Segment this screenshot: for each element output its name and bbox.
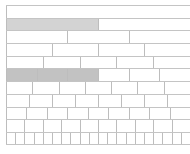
fraction-piece (129, 31, 190, 43)
fraction-row-1-2 (6, 18, 190, 31)
fraction-row-1-7 (6, 81, 190, 94)
fraction-piece (61, 120, 79, 132)
fraction-piece (181, 133, 190, 144)
fraction-piece (88, 108, 108, 120)
fraction-piece (162, 133, 171, 144)
fraction-piece (116, 120, 134, 132)
fraction-piece (144, 95, 167, 107)
fraction-piece (80, 133, 89, 144)
fraction-piece (24, 120, 42, 132)
fraction-piece (32, 82, 58, 94)
fraction-piece (89, 133, 98, 144)
fraction-piece (126, 133, 135, 144)
fraction-piece (6, 82, 32, 94)
fraction-piece (70, 133, 79, 144)
fraction-piece (6, 44, 52, 56)
fraction-piece (135, 133, 144, 144)
fraction-piece (43, 120, 61, 132)
fraction-row-1-9 (6, 107, 190, 120)
fraction-piece (153, 120, 171, 132)
fraction-piece (59, 82, 85, 94)
fraction-piece (98, 120, 116, 132)
fraction-piece (34, 133, 43, 144)
fraction-piece (98, 69, 129, 81)
fraction-piece (67, 31, 128, 43)
fraction-piece (6, 19, 98, 31)
fraction-piece (80, 57, 117, 69)
fraction-piece (98, 133, 107, 144)
fraction-piece (6, 133, 15, 144)
fraction-piece (75, 95, 98, 107)
fraction-piece (6, 69, 37, 81)
fraction-piece (61, 133, 70, 144)
fraction-row-1-10 (6, 119, 190, 132)
fraction-piece (52, 95, 75, 107)
fraction-piece (67, 108, 87, 120)
fraction-piece (144, 133, 153, 144)
fraction-piece (164, 82, 190, 94)
fraction-piece (98, 95, 121, 107)
fraction-row-1-8 (6, 94, 190, 107)
fraction-piece (29, 95, 52, 107)
fraction-row-1-5 (6, 56, 190, 69)
fraction-piece (144, 44, 190, 56)
fraction-piece (52, 133, 61, 144)
fraction-piece (149, 108, 169, 120)
fraction-piece (116, 133, 125, 144)
fraction-piece (137, 82, 163, 94)
fraction-row-1-4 (6, 43, 190, 56)
fraction-row-1-3 (6, 30, 190, 43)
fraction-piece (15, 133, 24, 144)
fraction-piece (52, 44, 98, 56)
fraction-piece (172, 133, 181, 144)
fraction-piece (129, 69, 160, 81)
fraction-piece (121, 95, 144, 107)
fraction-piece (6, 6, 190, 18)
fraction-piece (6, 108, 26, 120)
fraction-piece (43, 133, 52, 144)
fraction-piece (6, 120, 24, 132)
fraction-piece (26, 108, 46, 120)
fraction-piece (116, 57, 153, 69)
fraction-piece (67, 69, 98, 81)
fraction-piece (6, 95, 29, 107)
fraction-piece (47, 108, 67, 120)
fraction-piece (153, 57, 190, 69)
fraction-piece (170, 108, 190, 120)
fraction-piece (43, 57, 80, 69)
fraction-piece (6, 57, 43, 69)
fraction-piece (24, 133, 33, 144)
fraction-piece (111, 82, 137, 94)
fraction-piece (108, 108, 128, 120)
fraction-piece (159, 69, 190, 81)
fraction-wall (6, 5, 190, 145)
fraction-piece (85, 82, 111, 94)
fraction-piece (135, 120, 153, 132)
fraction-row-1-20 (6, 132, 190, 145)
fraction-piece (37, 69, 68, 81)
fraction-piece (172, 120, 190, 132)
fraction-row-1-6 (6, 68, 190, 81)
fraction-piece (80, 120, 98, 132)
fraction-piece (107, 133, 116, 144)
fraction-piece (167, 95, 190, 107)
fraction-piece (129, 108, 149, 120)
fraction-piece (153, 133, 162, 144)
fraction-piece (6, 31, 67, 43)
fraction-piece (98, 19, 190, 31)
fraction-piece (98, 44, 144, 56)
fraction-row-1-1 (6, 5, 190, 18)
